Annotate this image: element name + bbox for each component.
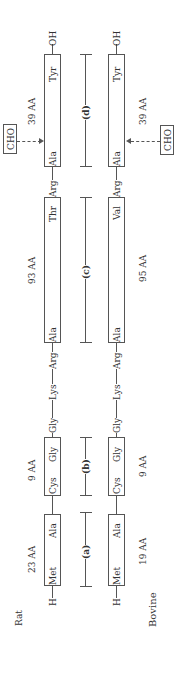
bovine-linker-lys: Lys	[112, 384, 122, 400]
rat-seg2-length: 9 AA	[27, 459, 37, 481]
bovine-cho-label: CHO	[163, 129, 173, 151]
bond	[52, 495, 53, 514]
tick	[80, 197, 92, 198]
species-label-rat: Rat	[14, 610, 24, 626]
bovine-seg2-length: 9 AA	[138, 455, 148, 477]
rat-seg1-end: Ala	[48, 523, 58, 538]
tick	[80, 437, 92, 438]
bond	[116, 495, 117, 514]
rat-linker-lys: Lys	[48, 384, 58, 400]
region-label-c: (c)	[80, 265, 92, 279]
bovine-seg2-end: Gly	[112, 447, 122, 462]
bovine-seg4-start: Ala	[112, 151, 122, 166]
rat-linker-gly: Gly	[48, 418, 58, 433]
bovine-seg1-end: Ala	[112, 523, 122, 538]
bovine-seg1-length: 19 AA	[138, 538, 148, 565]
bovine-seg3-start: Ala	[112, 327, 122, 342]
bovine-seg3-end: Val	[112, 206, 122, 220]
bovine-seg4-length: 39 AA	[138, 98, 148, 125]
bovine-seg1-start: Met	[112, 567, 122, 585]
bovine-linker-gly: Gly	[112, 418, 122, 433]
rat-seg3-end: Thr	[48, 206, 58, 222]
rat-seg2-start: Cys	[48, 477, 58, 494]
bovine-cho-dashed-link	[131, 141, 160, 142]
rat-seg4-length: 39 AA	[27, 98, 37, 125]
region-label-a: (a)	[80, 545, 92, 559]
region-label-b: (b)	[80, 459, 92, 474]
rat-seg3-length: 93 AA	[27, 257, 37, 284]
arrowhead-icon	[126, 138, 131, 144]
bovine-seg3-length: 95 AA	[138, 255, 148, 282]
rat-linker2-arg: Arg	[48, 180, 58, 197]
rat-n-terminus: H	[48, 598, 58, 606]
bovine-c-terminus: OH	[112, 31, 122, 46]
bovine-linker2-arg: Arg	[112, 180, 122, 197]
rat-seg4-start: Ala	[48, 151, 58, 166]
rat-seg2-end: Gly	[48, 447, 58, 462]
arrowhead-icon	[39, 138, 44, 144]
rat-cho-label: CHO	[6, 128, 16, 150]
bovine-linker-arg: Arg	[112, 352, 122, 369]
bond	[116, 585, 117, 598]
tick	[80, 586, 92, 587]
tick	[80, 495, 92, 496]
rat-seg1-length: 23 AA	[27, 546, 37, 573]
bond	[52, 585, 53, 598]
tick	[80, 54, 92, 55]
bovine-n-terminus: H	[112, 598, 122, 606]
rat-seg3-start: Ala	[48, 327, 58, 342]
tick	[80, 512, 92, 513]
tick	[80, 342, 92, 343]
rat-cho-dashed-link	[17, 141, 41, 142]
rat-linker-arg: Arg	[48, 352, 58, 369]
tick	[80, 166, 92, 167]
rat-c-terminus: OH	[48, 31, 58, 46]
rat-seg4-end: Tyr	[48, 67, 58, 82]
region-label-d: (d)	[80, 105, 92, 120]
rat-seg1-start: Met	[48, 567, 58, 585]
bovine-seg2-start: Cys	[112, 477, 122, 494]
species-label-bovine: Bovine	[148, 592, 158, 627]
bovine-seg4-end: Tyr	[112, 67, 122, 82]
